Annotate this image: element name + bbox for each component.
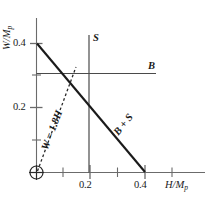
y-axis-title-main: W/M	[1, 30, 12, 50]
interaction-diagram-figure: W/Mp H/Mp 0.4 0.2 0.2 0.4 S B B + S W = …	[0, 0, 211, 204]
curve-label-shear: S	[93, 33, 99, 44]
y-axis-title: W/Mp	[2, 26, 13, 50]
plot-canvas	[0, 0, 211, 204]
origin-marker-circled-plus	[29, 165, 44, 180]
x-axis-title-main: H/M	[165, 179, 184, 190]
x-axis-title: H/Mp	[165, 180, 188, 191]
y-tick-label-0.4: 0.4	[13, 38, 26, 49]
x-axis-title-subscript: p	[184, 183, 188, 192]
x-tick-label-0.2: 0.2	[79, 180, 92, 191]
x-tick-label-0.4: 0.4	[134, 180, 147, 191]
curve-label-bending: B	[148, 61, 155, 72]
y-axis-title-subscript: p	[5, 26, 14, 30]
y-tick-label-0.2: 0.2	[13, 102, 26, 113]
